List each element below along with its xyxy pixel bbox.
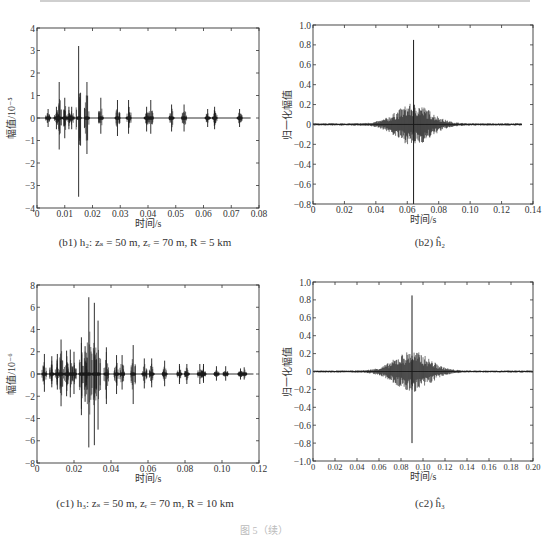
x-tick-label: 0.02: [328, 462, 343, 472]
caption-c1: (c1) h₃: zₛ = 50 m, zᵣ = 70 m, R = 10 km: [20, 497, 270, 510]
x-tick-label: 0.01: [56, 209, 73, 219]
y-tick-label: −0.2: [294, 385, 311, 395]
chart-c2: 00.020.040.060.080.100.120.140.160.180.2…: [275, 258, 551, 503]
x-tick-label: 0: [311, 205, 316, 215]
y-tick-label: −0.4: [294, 160, 311, 170]
y-tick-label: −2: [25, 159, 35, 169]
x-tick-label: 0.14: [525, 205, 542, 215]
x-tick-label: 0.05: [167, 209, 184, 219]
y-axis-label: 归一化幅值: [281, 90, 293, 140]
x-tick-label: 0.16: [482, 462, 497, 472]
x-axis-label: 时间/s: [135, 472, 162, 484]
y-tick-label: 2: [30, 347, 35, 357]
y-tick-label: 4: [30, 325, 35, 335]
x-tick-label: 0.18: [504, 462, 519, 472]
x-tick-label: 0.20: [526, 462, 541, 472]
y-tick-label: 0.8: [299, 40, 311, 50]
x-tick-label: 0.04: [350, 462, 366, 472]
plot-area: 00.010.020.030.040.050.060.070.08−4−3−2−…: [0, 0, 275, 245]
y-axis-label: 归一化幅值: [281, 347, 293, 397]
y-tick-label: 0.2: [299, 100, 311, 110]
y-tick-label: 1.0: [299, 278, 311, 288]
x-tick-label: 0.06: [372, 462, 387, 472]
y-tick-label: −0.8: [294, 439, 311, 449]
caption-b2: (b2) ĥ₂: [320, 236, 540, 248]
y-tick-label: 0.4: [299, 80, 311, 90]
y-tick-label: 0.6: [299, 60, 311, 70]
x-tick-label: 0.12: [493, 205, 510, 215]
y-tick-label: −0.2: [294, 140, 311, 150]
x-tick-label: 0.04: [103, 464, 120, 474]
x-tick-label: 0.03: [112, 209, 129, 219]
y-tick-label: 0: [30, 370, 35, 380]
x-tick-label: 0.08: [251, 209, 268, 219]
y-tick-label: 0: [306, 367, 311, 377]
y-tick-label: −8: [25, 459, 35, 469]
y-tick-label: 4: [30, 24, 35, 34]
x-tick-label: 0.02: [66, 464, 83, 474]
chart-b2: 00.020.040.060.080.100.120.14−0.8−0.6−0.…: [275, 0, 551, 245]
waveform-trace: [313, 40, 522, 204]
x-tick-label: 0: [35, 209, 40, 219]
y-tick-label: 8: [30, 281, 35, 291]
plot-area: 00.020.040.060.080.100.120.14−0.8−0.6−0.…: [275, 0, 551, 245]
y-axis-label: 幅值/10⁻⁶: [5, 353, 17, 395]
y-tick-label: −6: [25, 436, 35, 446]
waveform-trace: [37, 297, 253, 447]
y-tick-label: 0.2: [299, 349, 311, 359]
y-tick-label: 0: [30, 114, 35, 124]
y-tick-label: −0.6: [294, 421, 311, 431]
y-tick-label: 1: [30, 91, 35, 101]
x-tick-label: 0.12: [251, 464, 268, 474]
y-tick-label: −4: [25, 414, 35, 424]
x-tick-label: 0.08: [177, 464, 194, 474]
y-tick-label: −0.8: [294, 200, 311, 210]
x-tick-label: 0.04: [368, 205, 385, 215]
y-tick-label: −0.4: [294, 403, 311, 413]
chart-b1: 00.010.020.030.040.050.060.070.08−4−3−2−…: [0, 0, 275, 245]
y-tick-label: −0.6: [294, 180, 311, 190]
x-tick-label: 0.08: [394, 462, 409, 472]
y-axis-label: 幅值/10⁻⁵: [5, 97, 17, 139]
y-tick-label: −3: [25, 181, 35, 191]
y-tick-label: −2: [25, 392, 35, 402]
y-tick-label: −4: [25, 204, 35, 214]
x-tick-label: 0.14: [460, 462, 476, 472]
x-tick-label: 0: [311, 462, 315, 472]
waveform-trace: [37, 46, 251, 197]
y-tick-label: −1.0: [294, 457, 311, 467]
x-tick-label: 0.02: [336, 205, 353, 215]
waveform-trace: [313, 295, 533, 443]
y-tick-label: 1.0: [299, 21, 311, 31]
x-axis-label: 时间/s: [410, 470, 437, 482]
plot-area: 00.020.040.060.080.100.120.140.160.180.2…: [275, 258, 551, 503]
x-tick-label: 0.10: [462, 205, 479, 215]
y-tick-label: 6: [30, 303, 35, 313]
x-axis-label: 时间/s: [135, 217, 162, 229]
x-tick-label: 0.02: [84, 209, 101, 219]
x-tick-label: 0.10: [214, 464, 231, 474]
y-tick-label: 3: [30, 46, 35, 56]
y-tick-label: 0.8: [299, 295, 311, 305]
y-tick-label: 0.4: [299, 331, 311, 341]
figure-caption: 图 5（续）: [240, 522, 288, 537]
plot-area: 00.020.040.060.080.100.12−8−6−4−202468时间…: [0, 258, 275, 503]
y-tick-label: 0: [306, 120, 311, 130]
caption-c2: (c2) ĥ₃: [320, 497, 540, 509]
x-axis-label: 时间/s: [410, 213, 437, 225]
y-tick-label: 0.6: [299, 313, 311, 323]
x-tick-label: 0.07: [223, 209, 240, 219]
caption-b1: (b1) h₂: zₛ = 50 m, zᵣ = 70 m, R = 5 km: [20, 236, 270, 249]
x-tick-label: 0.12: [438, 462, 453, 472]
y-tick-label: −1: [25, 136, 35, 146]
x-tick-label: 0.06: [195, 209, 212, 219]
chart-c1: 00.020.040.060.080.100.12−8−6−4−202468时间…: [0, 258, 275, 503]
y-tick-label: 2: [30, 69, 35, 79]
x-tick-label: 0: [35, 464, 40, 474]
